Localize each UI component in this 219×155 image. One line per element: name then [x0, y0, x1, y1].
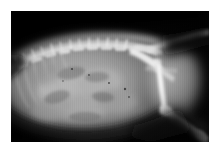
radiograph-frame: [11, 11, 209, 142]
radiograph-image: [11, 11, 209, 142]
screenshot-viewport: [0, 0, 219, 155]
